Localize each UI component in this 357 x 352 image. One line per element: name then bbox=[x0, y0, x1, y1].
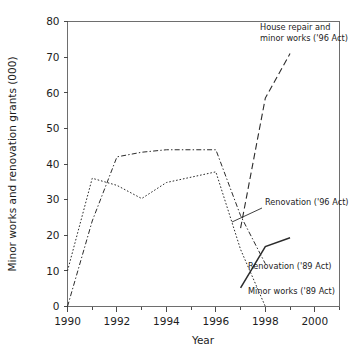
y-tick-label-60: 60 bbox=[46, 87, 59, 99]
annotation-house-repair-line1: House repair and bbox=[260, 22, 330, 32]
x-tick-label-1990: 1990 bbox=[54, 315, 81, 327]
y-axis-title: Minor works and renovation grants (000) bbox=[6, 57, 18, 272]
y-tick-label-80: 80 bbox=[46, 15, 59, 27]
annotation-leaders bbox=[232, 208, 262, 222]
y-tick-label-70: 70 bbox=[46, 51, 59, 63]
annotation-renovation-89: Renovation ('89 Act) bbox=[248, 261, 332, 271]
x-tick-label-1992: 1992 bbox=[104, 315, 131, 327]
annotation-house-repair-line2: minor works ('96 Act) bbox=[260, 33, 348, 43]
x-tick-label-1998: 1998 bbox=[252, 315, 279, 327]
y-axis-tick-labels: 01020304050607080 bbox=[46, 15, 59, 312]
series-renovation-89-act bbox=[68, 150, 266, 307]
leader-renovation-96 bbox=[232, 208, 262, 222]
chart-canvas: 01020304050607080 1990199219941996199820… bbox=[0, 0, 357, 352]
series-minor-works-89-act bbox=[68, 172, 266, 307]
x-axis-title: Year bbox=[191, 334, 215, 346]
y-tick-label-40: 40 bbox=[46, 158, 59, 170]
y-tick-label-10: 10 bbox=[46, 265, 59, 277]
x-axis-tick-labels: 199019921994199619982000 bbox=[54, 315, 328, 327]
line-chart: 01020304050607080 1990199219941996199820… bbox=[0, 0, 357, 352]
x-tick-label-1994: 1994 bbox=[153, 315, 180, 327]
x-tick-label-1996: 1996 bbox=[202, 315, 229, 327]
y-axis-ticks bbox=[64, 22, 68, 307]
y-tick-label-0: 0 bbox=[53, 300, 60, 312]
x-tick-label-2000: 2000 bbox=[301, 315, 328, 327]
annotation-house-repair: House repair and minor works ('96 Act) bbox=[260, 22, 348, 43]
y-tick-label-50: 50 bbox=[46, 122, 59, 134]
annotation-renovation-96: Renovation ('96 Act) bbox=[265, 197, 349, 207]
y-tick-label-30: 30 bbox=[46, 193, 59, 205]
annotation-minor-works-89: Minor works ('89 Act) bbox=[248, 286, 335, 296]
y-tick-label-20: 20 bbox=[46, 229, 59, 241]
